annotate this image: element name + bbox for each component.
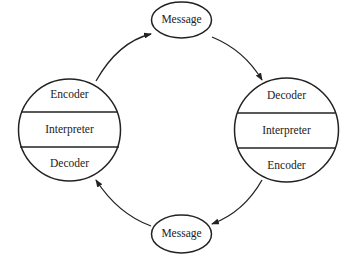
- communication-cycle-diagram: Encoder Interpreter Decoder Decoder Inte…: [0, 0, 356, 259]
- top-message-label: Message: [161, 13, 201, 26]
- top-message-node: Message: [152, 2, 212, 38]
- arrow-top-message-to-right: [212, 37, 262, 80]
- right-decoder-label: Decoder: [267, 89, 306, 101]
- arrow-left-to-top-message: [96, 34, 151, 81]
- right-communicator-node: Decoder Interpreter Encoder: [235, 78, 339, 182]
- arrow-bottom-message-to-left: [96, 180, 151, 226]
- right-interpreter-label: Interpreter: [262, 124, 311, 137]
- right-encoder-label: Encoder: [267, 159, 305, 171]
- left-communicator-node: Encoder Interpreter Decoder: [19, 79, 121, 181]
- bottom-message-node: Message: [152, 215, 212, 253]
- arrow-right-to-bottom-message: [212, 180, 262, 224]
- bottom-message-label: Message: [161, 227, 201, 240]
- left-interpreter-label: Interpreter: [45, 123, 94, 136]
- left-encoder-label: Encoder: [50, 88, 88, 100]
- left-decoder-label: Decoder: [50, 157, 89, 169]
